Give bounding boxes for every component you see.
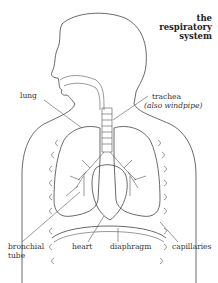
leader-heart [88, 216, 104, 242]
leader-capillaries [160, 222, 178, 242]
body-outline-right [134, 104, 196, 283]
nasal-cavity [60, 76, 104, 111]
face-profile [51, 24, 75, 104]
trachea-shape [102, 108, 112, 152]
body-outline-left [22, 104, 75, 283]
head-outline [62, 13, 146, 104]
label-trachea-alt: (also windpipe) [144, 102, 202, 111]
rib-cage-right [158, 140, 167, 264]
right-lung [114, 127, 160, 217]
label-heart: heart [72, 243, 92, 252]
label-bronchial-tube-line2: tube [8, 252, 25, 261]
label-diaphragm: diaphragm [110, 243, 151, 252]
label-capillaries: capillaries [172, 243, 211, 252]
leader-trachea [113, 96, 148, 120]
heart-shape [92, 165, 127, 220]
left-lung [54, 127, 100, 217]
label-lung: lung [20, 92, 37, 101]
respiratory-illustration [0, 0, 218, 283]
diaphragm-shape [52, 226, 166, 238]
leader-lung [44, 100, 82, 128]
